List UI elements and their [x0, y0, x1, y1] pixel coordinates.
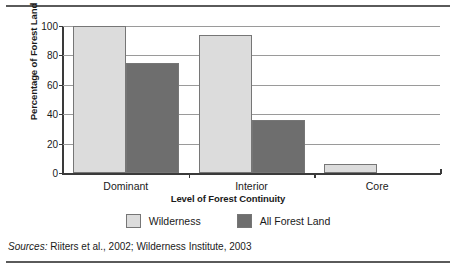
chart-area: Percentage of Forest Land 020406080100Do… [0, 0, 456, 190]
y-tick-mark [59, 55, 63, 56]
bar-wilderness-interior [199, 35, 252, 173]
legend-item-wilderness: Wilderness [126, 214, 201, 228]
bar-wilderness-core [324, 164, 377, 173]
sources-label: Sources: [8, 241, 47, 252]
bar-wilderness-dominant [73, 26, 126, 173]
y-tick-label: 0 [28, 168, 58, 179]
x-category-label-dominant: Dominant [103, 180, 148, 192]
chart-legend: WildernessAll Forest Land [0, 214, 456, 228]
bar-all-forest-land-dominant [126, 63, 179, 173]
y-tick-label: 100 [28, 21, 58, 32]
legend-item-all-forest-land: All Forest Land [237, 214, 331, 228]
x-tick-mark [314, 173, 316, 178]
x-axis-line [62, 173, 441, 175]
legend-label: Wilderness [149, 215, 201, 227]
legend-swatch [237, 214, 252, 228]
x-tick-mark [189, 173, 191, 178]
bottom-rule [6, 261, 450, 263]
sources-note: Sources: Riiters et al., 2002; Wildernes… [8, 241, 251, 252]
x-axis-label: Level of Forest Continuity [0, 193, 456, 204]
plot-area: 020406080100DominantInteriorCore [63, 26, 440, 173]
bar-all-forest-land-interior [252, 120, 305, 173]
x-axis-right-endcap [440, 169, 442, 174]
y-tick-mark [59, 173, 63, 174]
x-category-label-interior: Interior [235, 180, 268, 192]
legend-label: All Forest Land [260, 215, 331, 227]
y-tick-mark [59, 85, 63, 86]
y-tick-mark [59, 144, 63, 145]
y-axis-line [62, 26, 64, 173]
y-tick-mark [59, 114, 63, 115]
sources-text: Riiters et al., 2002; Wilderness Institu… [47, 241, 251, 252]
y-tick-label: 80 [28, 50, 58, 61]
y-tick-label: 20 [28, 138, 58, 149]
figure: Percentage of Forest Land 020406080100Do… [0, 0, 456, 267]
x-category-label-core: Core [366, 180, 389, 192]
y-tick-mark [59, 26, 63, 27]
y-tick-label: 60 [28, 79, 58, 90]
legend-swatch [126, 214, 141, 228]
y-tick-label: 40 [28, 109, 58, 120]
